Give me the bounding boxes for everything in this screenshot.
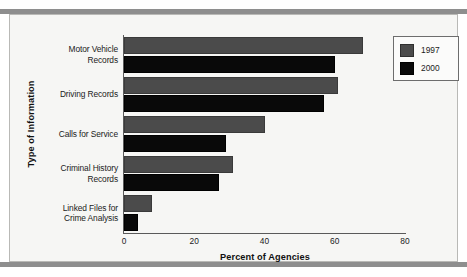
x-axis-line (124, 233, 406, 234)
legend-swatch-icon (400, 44, 414, 57)
category-label-line: Crime Analysis (22, 213, 118, 224)
bar-1997-1 (124, 77, 338, 94)
bar-1997-0 (124, 37, 363, 54)
legend-item: 2000 (400, 59, 458, 77)
legend-label: 1997 (421, 45, 440, 55)
plot-area (124, 35, 405, 233)
x-axis-title: Percent of Agencies (124, 252, 406, 262)
category-label-line: Criminal History (22, 163, 118, 174)
bar-1997-2 (124, 116, 265, 133)
bar-2000-2 (124, 135, 226, 152)
bar-2000-3 (124, 174, 219, 191)
bar-1997-4 (124, 195, 152, 212)
x-tick-label: 80 (390, 236, 420, 246)
figure-frame: Type of Information Motor VehicleRecords… (9, 14, 458, 262)
legend-item: 1997 (400, 41, 458, 59)
category-label-line: Motor Vehicle (22, 44, 118, 55)
bar-2000-1 (124, 95, 324, 112)
category-label-line: Driving Records (22, 89, 118, 100)
bar-1997-3 (124, 156, 233, 173)
x-tick-label: 0 (109, 236, 139, 246)
category-label-line: Records (22, 174, 118, 185)
legend-label: 2000 (421, 63, 440, 73)
category-label: Criminal HistoryRecords (22, 163, 118, 184)
legend: 19972000 (393, 36, 459, 81)
category-label: Calls for Service (22, 129, 118, 140)
bar-2000-4 (124, 214, 138, 231)
category-label: Linked Files forCrime Analysis (22, 203, 118, 224)
chart-screenshot: Type of Information Motor VehicleRecords… (0, 0, 467, 277)
y-axis-category-labels: Motor VehicleRecordsDriving RecordsCalls… (18, 35, 118, 233)
legend-swatch-icon (400, 62, 414, 75)
x-axis-tick-labels: 020406080 (124, 236, 406, 250)
x-tick-label: 60 (320, 236, 350, 246)
category-label-line: Records (22, 55, 118, 66)
x-tick-label: 20 (179, 236, 209, 246)
category-label-line: Linked Files for (22, 203, 118, 214)
bottom-rule (0, 262, 467, 267)
bar-2000-0 (124, 56, 335, 73)
category-label: Driving Records (22, 89, 118, 100)
x-tick-label: 40 (250, 236, 280, 246)
category-label-line: Calls for Service (22, 129, 118, 140)
category-label: Motor VehicleRecords (22, 44, 118, 65)
